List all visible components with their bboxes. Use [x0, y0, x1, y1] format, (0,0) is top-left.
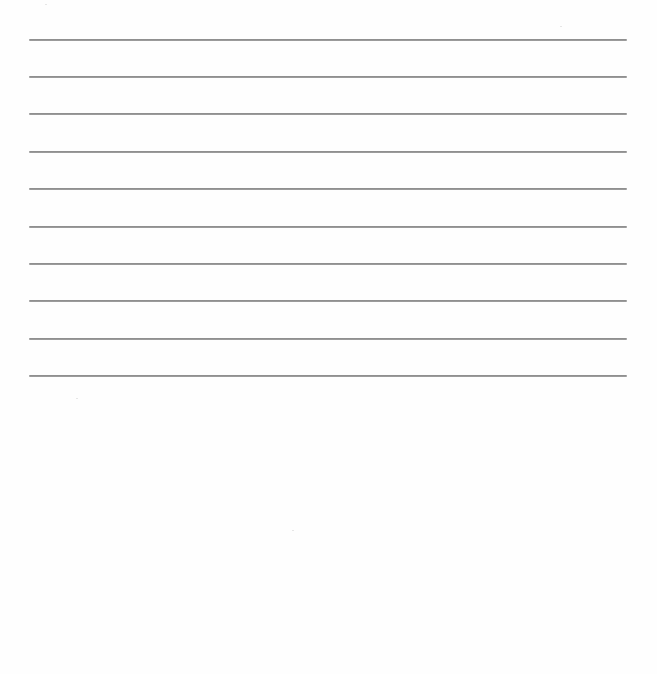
ruled-line-5	[29, 188, 627, 190]
speck	[45, 4, 47, 5]
lined-paper-page	[0, 0, 657, 674]
speck	[560, 26, 562, 27]
ruled-line-4	[29, 151, 627, 153]
ruled-line-9	[29, 338, 627, 340]
ruled-line-8	[29, 300, 627, 302]
speck	[76, 398, 78, 399]
ruled-line-3	[29, 113, 627, 115]
ruled-line-6	[29, 226, 627, 228]
ruled-line-1	[29, 39, 627, 41]
ruled-line-7	[29, 263, 627, 265]
ruled-line-10	[29, 375, 627, 377]
ruled-line-2	[29, 76, 627, 78]
speck	[292, 530, 294, 531]
